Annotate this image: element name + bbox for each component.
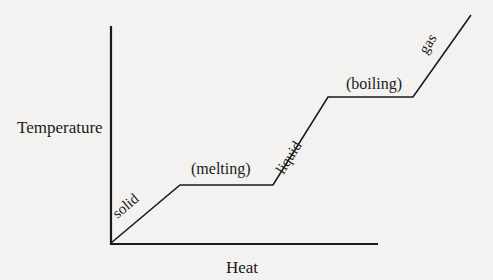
x-axis-label: Heat [226, 258, 258, 278]
segment-label-melting: (melting) [191, 160, 251, 178]
y-axis-label: Temperature [17, 118, 103, 138]
segment-label-boiling: (boiling) [346, 75, 402, 93]
